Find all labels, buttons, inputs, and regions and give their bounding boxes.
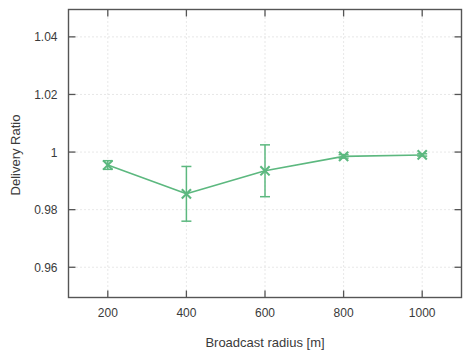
y-tick-label-0: 0.96	[34, 261, 58, 275]
chart-background	[0, 0, 466, 355]
x-tick-label-0: 200	[98, 306, 118, 320]
y-axis-title: Delivery Ratio	[8, 115, 23, 196]
x-tick-label-1: 400	[176, 306, 196, 320]
delivery-ratio-line-chart: 0.960.9811.021.042004006008001000 Broadc…	[0, 0, 466, 355]
y-tick-label-4: 1.04	[34, 30, 58, 44]
y-tick-label-1: 0.98	[34, 203, 58, 217]
x-tick-label-4: 1000	[409, 306, 436, 320]
x-tick-label-3: 800	[334, 306, 354, 320]
x-tick-label-2: 600	[255, 306, 275, 320]
y-tick-label-2: 1	[51, 146, 58, 160]
x-axis-title: Broadcast radius [m]	[205, 335, 324, 350]
chart-figure: 0.960.9811.021.042004006008001000 Broadc…	[0, 0, 466, 355]
y-tick-label-3: 1.02	[34, 88, 58, 102]
